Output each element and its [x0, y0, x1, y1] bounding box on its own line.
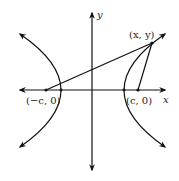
left-vertex-point [60, 89, 63, 92]
right-focus-label: (c, 0) [126, 95, 152, 106]
hyperbola-diagram: y x (x, y) (−c, 0) (c, 0) [0, 0, 179, 181]
y-axis-label: y [96, 9, 103, 20]
left-focus-label: (−c, 0) [26, 95, 61, 106]
left-focus-point [44, 88, 47, 91]
point-on-curve-label: (x, y) [129, 29, 155, 40]
focal-line-left [46, 43, 152, 90]
right-focus-point [136, 88, 139, 91]
x-axis-label: x [163, 94, 169, 105]
curve-point [150, 41, 153, 44]
right-vertex-point [123, 89, 126, 92]
